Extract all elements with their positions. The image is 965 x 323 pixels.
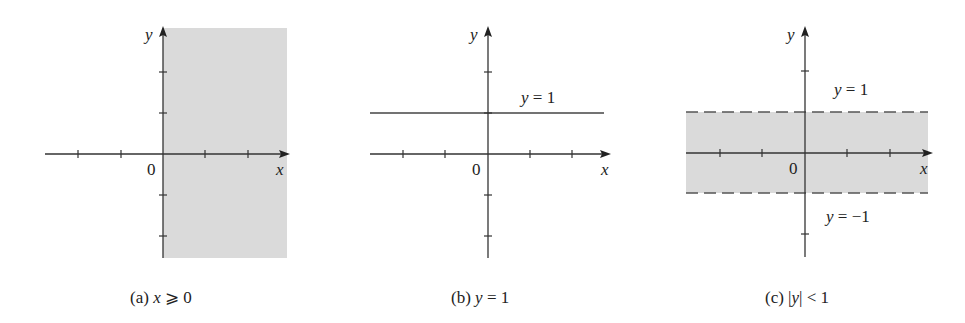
x-axis-label: x <box>600 160 609 179</box>
lower-line-label: y = −1 <box>824 207 870 226</box>
line-label-y-equals-1: y = 1 <box>519 88 555 107</box>
upper-line-label: y = 1 <box>832 80 868 99</box>
origin-label: 0 <box>472 160 481 179</box>
figure-canvas: y x 0 (a) x ⩾ 0 y x 0 y = 1 (b) <box>0 0 965 323</box>
origin-label: 0 <box>147 160 156 179</box>
panel-c: y x 0 y = 1 y = −1 (c) |y| < 1 <box>686 25 933 307</box>
y-axis-label: y <box>468 25 478 44</box>
shaded-region-x-nonnegative <box>163 28 287 258</box>
caption-c: (c) |y| < 1 <box>765 288 829 307</box>
x-axis-label: x <box>275 160 284 179</box>
panel-a: y x 0 (a) x ⩾ 0 <box>45 25 290 307</box>
y-axis-label: y <box>143 25 153 44</box>
panel-b: y x 0 y = 1 (b) y = 1 <box>370 25 611 307</box>
origin-label: 0 <box>789 159 798 178</box>
caption-b: (b) y = 1 <box>451 288 509 307</box>
x-axis-label: x <box>919 159 928 178</box>
caption-a: (a) x ⩾ 0 <box>130 288 192 307</box>
y-axis-label: y <box>785 25 795 44</box>
